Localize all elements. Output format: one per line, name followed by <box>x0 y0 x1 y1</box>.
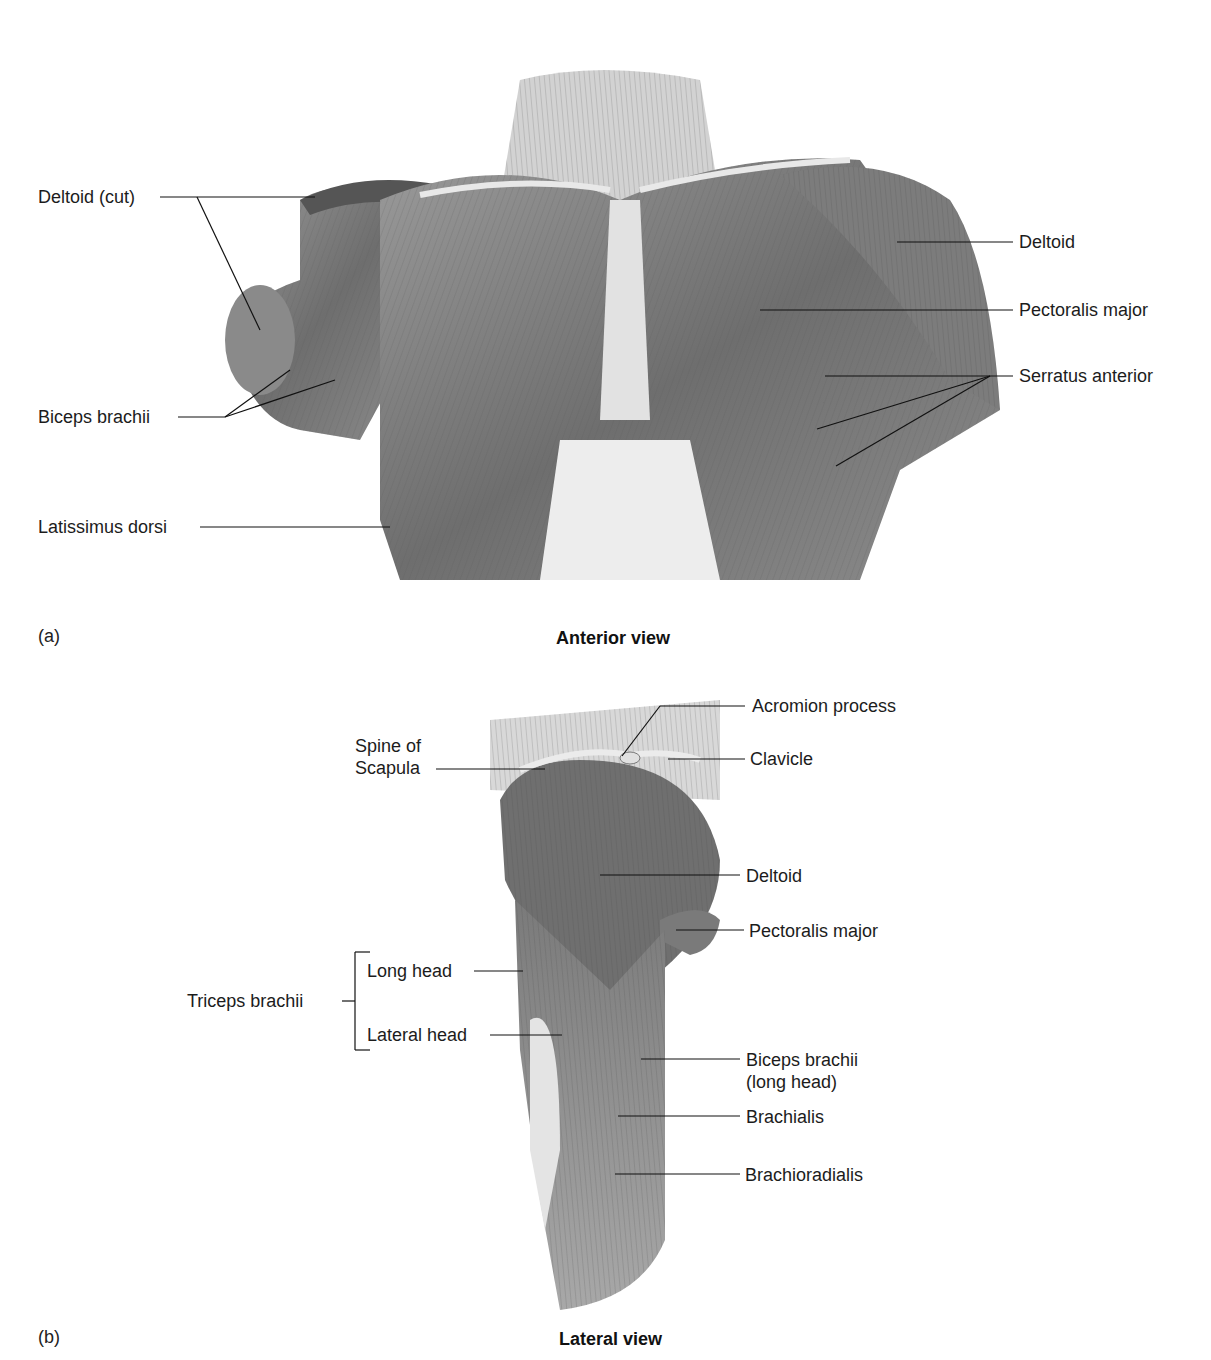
panel-letter-b: (b) <box>38 1327 60 1348</box>
label-pectoralis-major: Pectoralis major <box>1019 300 1148 321</box>
label-spine-of-scapula-line2: Scapula <box>355 758 420 779</box>
label-spine-of-scapula-line1: Spine of <box>355 736 421 757</box>
label-clavicle: Clavicle <box>750 749 813 770</box>
label-long-head: Long head <box>367 961 452 982</box>
label-deltoid: Deltoid <box>1019 232 1075 253</box>
label-biceps-brachii: Biceps brachii <box>38 407 150 428</box>
label-deltoid-cut: Deltoid (cut) <box>38 187 135 208</box>
label-serratus-anterior: Serratus anterior <box>1019 366 1153 387</box>
label-deltoid-lateral: Deltoid <box>746 866 802 887</box>
label-triceps-brachii: Triceps brachii <box>187 991 303 1012</box>
label-brachialis: Brachialis <box>746 1107 824 1128</box>
label-biceps-brachii-line2: (long head) <box>746 1072 837 1093</box>
anterior-view-figure <box>225 70 1000 580</box>
label-biceps-brachii-line1: Biceps brachii <box>746 1050 858 1071</box>
lateral-view-figure <box>490 700 720 1310</box>
label-latissimus-dorsi: Latissimus dorsi <box>38 517 167 538</box>
label-acromion-process: Acromion process <box>752 696 896 717</box>
anatomy-illustration <box>0 0 1211 1360</box>
panel-letter-a: (a) <box>38 626 60 647</box>
label-pectoralis-major-lateral: Pectoralis major <box>749 921 878 942</box>
caption-anterior-view: Anterior view <box>556 628 670 649</box>
caption-lateral-view: Lateral view <box>559 1329 662 1350</box>
label-lateral-head: Lateral head <box>367 1025 467 1046</box>
label-brachioradialis: Brachioradialis <box>745 1165 863 1186</box>
